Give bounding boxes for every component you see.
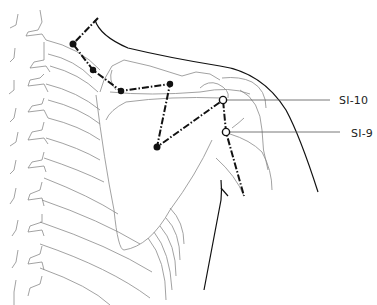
- ribs: [40, 40, 184, 305]
- acupoint-si10-marker: [219, 96, 226, 103]
- shoulder-contours: [216, 78, 272, 197]
- spine-vertebrae: [9, 10, 50, 305]
- leader-lines: [227, 100, 340, 132]
- body-outline: [95, 20, 318, 290]
- meridian-path: [73, 18, 244, 196]
- acupoint-si9-marker: [222, 128, 229, 135]
- acupoint-label-si10: SI-10: [339, 94, 368, 107]
- shoulder-acupoint-diagram: [0, 0, 377, 305]
- acupoint-label-si9: SI-9: [351, 127, 373, 140]
